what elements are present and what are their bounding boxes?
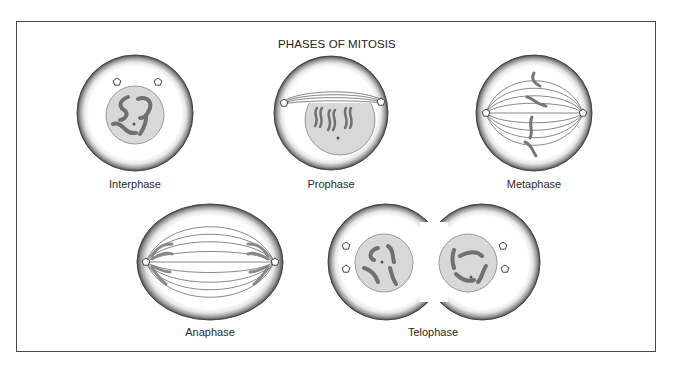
label-telophase: Telophase bbox=[408, 326, 458, 338]
metaphase-cell bbox=[476, 55, 592, 171]
label-interphase: Interphase bbox=[109, 178, 161, 190]
nucleus bbox=[106, 86, 164, 144]
prophase-cell bbox=[274, 56, 388, 170]
nucleus bbox=[439, 234, 497, 292]
anaphase-cell bbox=[137, 204, 283, 320]
nucleus bbox=[355, 234, 413, 292]
label-anaphase: Anaphase bbox=[185, 326, 235, 338]
label-metaphase: Metaphase bbox=[507, 178, 561, 190]
telophase-cell bbox=[328, 204, 540, 320]
label-prophase: Prophase bbox=[307, 178, 354, 190]
interphase-cell bbox=[77, 55, 193, 171]
